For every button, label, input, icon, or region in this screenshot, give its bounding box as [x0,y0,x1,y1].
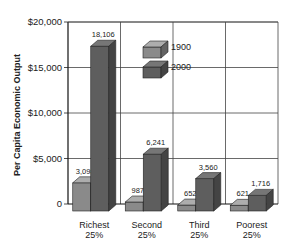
category-label: 25% [85,230,103,240]
value-label: 6,241 [146,138,165,147]
category-label: 25% [138,230,156,240]
y-tick-label: $5,000 [33,153,62,164]
category-label: 25% [243,230,261,240]
bar-2000 [248,189,273,211]
bar-group-poorest-25-: 6211,716 [230,179,273,211]
legend-item-1900: 1900 [143,41,191,58]
y-axis-label: Per Capita Economic Output [12,54,22,176]
y-tick-label: $15,000 [28,62,62,73]
y-tick-label: $10,000 [28,107,62,118]
value-label: 3,560 [199,163,218,172]
value-label: 652 [184,189,197,198]
category-label: 25% [190,230,208,240]
category-label: Third [189,220,210,230]
bar-2000 [196,173,221,211]
category-label: Richest [79,220,110,230]
category-label: Second [131,220,162,230]
y-tick-label: 0 [57,198,62,209]
bar-group-third-25-: 6523,560 [178,163,221,211]
bar-2000 [91,40,116,211]
bar-chart: Per Capita Economic Output0$5,000$10,000… [0,0,294,250]
legend-label: 2000 [171,62,191,72]
value-label: 1,716 [251,179,270,188]
value-label: 18,106 [92,30,115,39]
legend-label: 1900 [171,42,191,52]
bar-2000 [143,148,168,211]
legend: 19002000 [143,41,191,78]
category-label: Poorest [236,220,268,230]
value-label: 987 [131,186,144,195]
bar-group-second-25-: 9876,241 [125,138,168,211]
value-label: 621 [236,189,249,198]
y-tick-label: $20,000 [28,16,62,27]
bar-group-richest-25-: 3,09818,106 [73,30,116,211]
legend-item-2000: 2000 [143,61,191,78]
